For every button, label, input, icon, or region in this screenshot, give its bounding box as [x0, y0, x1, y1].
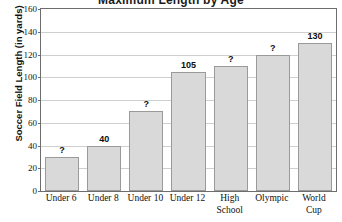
x-axis-label-line: Under 8: [82, 193, 124, 205]
bar-slot: ?: [210, 9, 252, 191]
x-axis-label-line: Olympic: [251, 193, 293, 205]
x-axis-label-line: Cup: [293, 205, 335, 217]
bar[interactable]: [214, 66, 248, 191]
x-axis-category-label: Under 6: [40, 193, 82, 205]
y-axis-tick-label: 60: [3, 118, 37, 128]
x-axis-category-label: Olympic: [251, 193, 293, 205]
bar-chart: Maximum Length by Age Soccer Field Lengt…: [0, 0, 342, 222]
y-axis-tick-label: 100: [3, 72, 37, 82]
bar[interactable]: [129, 111, 163, 191]
bar-value-label: ?: [125, 99, 167, 109]
y-axis-tick-label: 0: [3, 186, 37, 196]
bar-value-label: ?: [41, 145, 83, 155]
x-axis-label-line: World: [293, 193, 335, 205]
y-axis-tick-label: 20: [3, 163, 37, 173]
y-axis-tick-label: 120: [3, 50, 37, 60]
bar-value-label: ?: [252, 43, 294, 53]
bar[interactable]: [256, 55, 290, 192]
x-axis-category-labels: Under 6Under 8Under 10Under 12HighSchool…: [40, 193, 337, 222]
y-axis-tick-label: 140: [3, 27, 37, 37]
bar-slot: 130: [294, 9, 336, 191]
bar-value-label: 40: [83, 134, 125, 144]
bar-slot: ?: [125, 9, 167, 191]
bar[interactable]: [87, 146, 121, 192]
x-axis-category-label: Under 8: [82, 193, 124, 205]
bar[interactable]: [45, 157, 79, 191]
x-axis-category-label: HighSchool: [209, 193, 251, 216]
bar-slot: ?: [41, 9, 83, 191]
bar[interactable]: [171, 72, 205, 191]
x-axis-category-label: Under 10: [124, 193, 166, 205]
bar-series: ?40?105??130: [41, 9, 336, 191]
x-axis-label-line: Under 6: [40, 193, 82, 205]
x-axis-category-label: WorldCup: [293, 193, 335, 216]
x-axis-label-line: High: [209, 193, 251, 205]
bar-slot: 105: [167, 9, 209, 191]
y-axis-tick-label: 40: [3, 141, 37, 151]
y-axis-tick-label: 160: [3, 4, 37, 14]
chart-title: Maximum Length by Age: [0, 0, 342, 7]
bar-slot: 40: [83, 9, 125, 191]
bar-value-label: ?: [210, 54, 252, 64]
bar-slot: ?: [252, 9, 294, 191]
x-axis-label-line: Under 12: [166, 193, 208, 205]
bar-value-label: 105: [167, 60, 209, 70]
y-axis-tick-label: 80: [3, 95, 37, 105]
plot-area: 020406080100120140160 ?40?105??130: [40, 8, 337, 192]
y-axis-tick-mark: [38, 191, 41, 192]
x-axis-label-line: Under 10: [124, 193, 166, 205]
x-axis-label-line: School: [209, 205, 251, 217]
bar-value-label: 130: [294, 31, 336, 41]
bar[interactable]: [298, 43, 332, 191]
x-axis-category-label: Under 12: [166, 193, 208, 205]
